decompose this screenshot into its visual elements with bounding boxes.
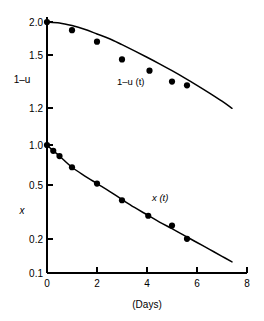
chart-svg: 2.0 1.5 1.2 1.0 0.5 0.2 0.1 0 2 4 6 8 (D…: [0, 0, 264, 321]
data-point: [44, 19, 50, 25]
y-tick-label-0-5: 0.5: [29, 180, 43, 191]
data-point: [184, 82, 190, 88]
data-point: [56, 153, 62, 159]
x-tick-label-4: 4: [144, 278, 150, 289]
data-point: [169, 78, 175, 84]
data-point: [50, 148, 56, 154]
data-point: [146, 68, 152, 74]
x-tick-label-8: 8: [244, 278, 250, 289]
y-tick-label-0-1: 0.1: [29, 268, 43, 279]
x-axis-title: (Days): [132, 299, 161, 310]
data-point: [119, 197, 125, 203]
x-tick-label-0: 0: [44, 278, 50, 289]
y-tick-label-2-0: 2.0: [29, 17, 43, 28]
series-label-upper: 1–u (t): [117, 76, 144, 87]
y-tick-label-1-0: 1.0: [29, 140, 43, 151]
data-point: [69, 27, 75, 33]
curve-upper-model: [47, 22, 232, 108]
y-tick-label-0-2: 0.2: [29, 234, 43, 245]
chart-figure: 2.0 1.5 1.2 1.0 0.5 0.2 0.1 0 2 4 6 8 (D…: [0, 0, 264, 321]
data-point: [169, 222, 175, 228]
y-axis-title-upper: 1–u: [14, 74, 31, 85]
data-point: [119, 56, 125, 62]
series-label-lower: x (t): [151, 192, 168, 203]
data-point: [94, 180, 100, 186]
curve-lower-model: [47, 145, 232, 262]
data-point: [69, 164, 75, 170]
x-tick-label-6: 6: [194, 278, 200, 289]
y-tick-label-1-2: 1.2: [29, 103, 43, 114]
y-axis-title-lower: x: [19, 205, 26, 216]
data-point: [94, 39, 100, 45]
data-point: [184, 236, 190, 242]
x-tick-label-2: 2: [94, 278, 100, 289]
data-point: [145, 213, 151, 219]
y-tick-label-1-5: 1.5: [29, 50, 43, 61]
data-point: [44, 142, 50, 148]
